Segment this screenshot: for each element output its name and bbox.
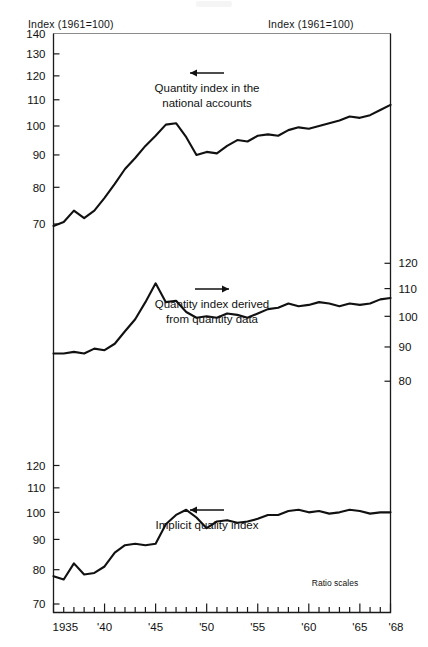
chart-canvas: 7080901001101201301408090100110120708090… xyxy=(0,0,428,647)
x-tick-label: '55 xyxy=(250,621,265,633)
annotation-label-top: Quantity index in thenational accounts xyxy=(155,82,260,109)
y-tick-label-middle: 80 xyxy=(399,375,412,387)
y-tick-label-top: 110 xyxy=(27,94,45,106)
y-tick-label-bottom: 80 xyxy=(33,564,46,576)
series-line-top xyxy=(54,105,391,226)
ratio-scales-note: Ratio scales xyxy=(312,578,358,588)
annotation-line2: from quantity data xyxy=(166,313,259,325)
y-tick-label-middle: 110 xyxy=(399,283,417,295)
y-tick-label-bottom: 110 xyxy=(27,482,45,494)
annotation-line1: Quantity index in the xyxy=(155,82,260,94)
y-tick-label-middle: 90 xyxy=(399,341,412,353)
annotation-arrow-left xyxy=(190,506,224,513)
x-tick-label: '65 xyxy=(352,621,367,633)
left-axis-title: Index (1961=100) xyxy=(28,18,114,30)
y-tick-label-top: 80 xyxy=(33,182,46,194)
annotation-label-bottom: Implicit quality index xyxy=(156,519,259,531)
y-tick-label-top: 120 xyxy=(26,70,45,82)
y-tick-label-top: 100 xyxy=(26,120,45,132)
y-tick-label-top: 130 xyxy=(26,48,45,60)
annotation-arrow-left xyxy=(190,69,224,76)
y-tick-label-top: 70 xyxy=(33,218,46,230)
chart-figure: Index (1961=100) Index (1961=100) 708090… xyxy=(0,0,428,647)
y-tick-label-middle: 120 xyxy=(399,257,418,269)
y-tick-label-middle: 100 xyxy=(399,311,418,323)
x-tick-label: '45 xyxy=(148,621,163,633)
y-tick-label-bottom: 100 xyxy=(26,507,45,519)
annotation-line1: Quantity index derived xyxy=(155,298,269,310)
annotation-arrow-right xyxy=(195,285,229,292)
x-tick-label: '50 xyxy=(199,621,214,633)
annotation-line1: Implicit quality index xyxy=(156,519,259,531)
y-tick-label-top: 90 xyxy=(33,149,46,161)
annotation-line2: national accounts xyxy=(162,97,252,109)
annotation-label-middle: Quantity index derivedfrom quantity data xyxy=(155,298,269,325)
x-tick-label: '68 xyxy=(389,621,404,633)
x-tick-label: '40 xyxy=(97,621,112,633)
y-tick-label-bottom: 120 xyxy=(26,460,45,472)
y-tick-label-bottom: 70 xyxy=(33,598,46,610)
x-tick-label: '60 xyxy=(301,621,316,633)
x-tick-label: 1935 xyxy=(53,621,79,633)
page-artifact-mark xyxy=(196,1,232,7)
y-tick-label-bottom: 90 xyxy=(33,534,46,546)
right-axis-title: Index (1961=100) xyxy=(268,18,354,30)
